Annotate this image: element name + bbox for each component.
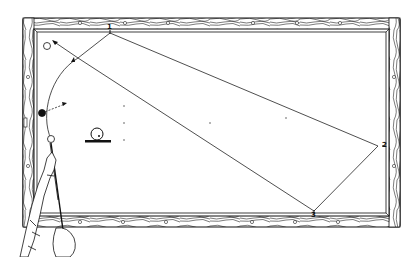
object-ball-icon bbox=[39, 110, 46, 117]
table-rails bbox=[23, 18, 400, 227]
cue-ball-icon bbox=[48, 136, 55, 143]
target-ball-icon bbox=[44, 43, 51, 50]
billiards-diagram: 1 2 3 bbox=[0, 0, 420, 257]
table-illustration bbox=[0, 0, 420, 257]
rail-point-label-3: 3 bbox=[311, 212, 316, 219]
rail-point-label-2: 2 bbox=[382, 142, 387, 149]
rail-point-label-1: 1 bbox=[107, 24, 112, 31]
